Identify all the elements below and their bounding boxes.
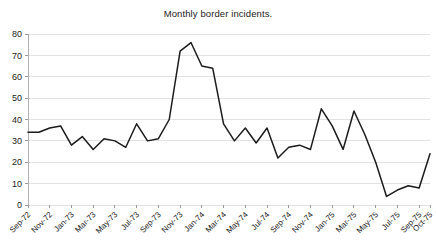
x-axis-tick-label: Jan-75 <box>313 210 337 234</box>
y-axis-tick-labels: 01020304050607080 <box>12 29 28 210</box>
y-axis-tick-label: 70 <box>12 51 22 61</box>
y-axis-tick-label: 30 <box>12 136 22 146</box>
y-axis-tick-label: 0 <box>17 200 22 210</box>
x-axis-tick-label: Sep-74 <box>269 210 294 235</box>
x-axis-tick-label: Mar-73 <box>73 210 98 235</box>
x-axis-tick-label: Nov-72 <box>30 210 55 235</box>
x-axis-tick-label: Sep-73 <box>138 210 163 235</box>
chart-container: Monthly border incidents. 01020304050607… <box>0 0 436 252</box>
x-axis-tick-label: Sep-72 <box>8 210 33 235</box>
x-axis-tick-labels: Sep-72Nov-72Jan-73Mar-73May-73Jul-73Sep-… <box>8 205 435 235</box>
x-axis-tick-label: May-74 <box>224 210 250 236</box>
x-axis-tick-label: Nov-73 <box>160 210 185 235</box>
y-axis-tick-label: 40 <box>12 115 22 125</box>
x-axis-tick-label: Mar-74 <box>204 210 229 235</box>
y-axis-tick-label: 80 <box>12 29 22 39</box>
y-axis-tick-label: 10 <box>12 179 22 189</box>
y-axis-tick-label: 20 <box>12 157 22 167</box>
x-axis-tick-label: Nov-74 <box>290 210 315 235</box>
x-axis-tick-label: May-75 <box>355 210 381 236</box>
x-axis-tick-label: May-73 <box>94 210 120 236</box>
gridlines <box>28 34 430 205</box>
y-axis-tick-label: 50 <box>12 93 22 103</box>
x-axis-tick-label: Jan-73 <box>52 210 76 234</box>
x-axis-tick-label: Jan-74 <box>183 210 207 234</box>
line-chart-plot: 01020304050607080 Sep-72Nov-72Jan-73Mar-… <box>0 0 436 252</box>
x-axis-tick-label: Mar-75 <box>334 210 359 235</box>
y-axis-tick-label: 60 <box>12 72 22 82</box>
